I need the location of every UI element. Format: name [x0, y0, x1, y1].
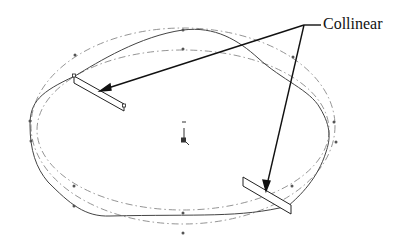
leader-arrows: [100, 25, 321, 191]
inner-construction-ellipse: [37, 50, 329, 210]
diagram-canvas: [0, 0, 408, 244]
upper-left-tangent-handle[interactable]: [73, 74, 126, 111]
collinear-label: Collinear: [323, 15, 383, 33]
origin-marker-icon: [182, 122, 190, 145]
outer-construction-ellipse: [31, 28, 335, 224]
